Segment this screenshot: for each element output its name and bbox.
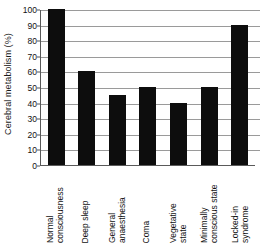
x-axis-category-label-line: Deep sleep — [80, 200, 90, 243]
bar — [109, 95, 126, 165]
y-axis-tick-label: 90 — [28, 21, 37, 31]
y-axis-title-text: Cerebral metabolism (%) — [3, 33, 13, 135]
bar — [78, 71, 95, 165]
x-axis-category-label: Deep sleep — [81, 200, 91, 243]
x-axis-category: Generalanaesthesia — [108, 167, 125, 243]
y-axis-tick-label: 70 — [28, 52, 37, 62]
bar-chart-figure: Cerebral metabolism (%) 0102030405060708… — [0, 0, 261, 243]
x-axis-category-label-line: syndrome — [240, 206, 250, 243]
y-axis-tick-label: 50 — [28, 83, 37, 93]
y-axis-tick-label: 100 — [23, 5, 37, 15]
y-axis-tick-label: 80 — [28, 36, 37, 46]
plot-area — [40, 10, 255, 166]
y-axis-tick-labels: 0102030405060708090100 — [16, 10, 40, 166]
x-axis-category: Coma — [139, 167, 156, 243]
x-axis-category-label-line: General — [106, 213, 116, 243]
y-axis-title: Cerebral metabolism (%) — [0, 0, 16, 168]
bar-series — [41, 10, 255, 165]
x-axis-category: Minimallyconscious state — [200, 167, 217, 243]
bar — [201, 87, 218, 165]
x-axis-category: Normalconsciousness — [47, 167, 64, 243]
x-axis-category: Locked-insyndrome — [231, 167, 248, 243]
y-axis-tick-label: 60 — [28, 67, 37, 77]
y-axis-tick-label: 20 — [28, 130, 37, 140]
y-axis-tick-label: 30 — [28, 114, 37, 124]
bar — [170, 103, 187, 165]
x-axis-category-label-line: state — [178, 203, 188, 243]
x-axis-category: Deep sleep — [78, 167, 95, 243]
x-axis-category-label-line: Coma — [142, 220, 152, 243]
x-axis-category: Vegetativestate — [170, 167, 187, 243]
y-axis-tick-label: 10 — [28, 145, 37, 155]
x-axis-category-label-line: Vegetative — [168, 203, 178, 243]
bar — [231, 25, 248, 165]
x-axis-category-label: Locked-insyndrome — [230, 206, 249, 243]
x-axis-category-label: Coma — [143, 220, 153, 243]
x-axis-category-label-line: conscious state — [209, 184, 219, 243]
x-axis-category-label: Normalconsciousness — [46, 187, 65, 243]
x-axis-category-label-line: Locked-in — [229, 206, 239, 243]
x-axis-category-labels: NormalconsciousnessDeep sleepGeneralanae… — [40, 167, 255, 243]
bar — [48, 9, 65, 165]
x-axis-category-label-line: Normal — [45, 216, 55, 243]
y-axis-tick-label: 40 — [28, 99, 37, 109]
bar — [139, 87, 156, 165]
x-axis-category-label: Generalanaesthesia — [107, 197, 126, 243]
x-axis-category-label: Minimallyconscious state — [199, 184, 218, 243]
x-axis-category-label-line: anaesthesia — [117, 197, 127, 243]
x-axis-category-label-line: Minimally — [198, 208, 208, 243]
x-axis-category-label-line: consciousness — [55, 187, 65, 243]
x-axis-category-label: Vegetativestate — [169, 203, 188, 243]
